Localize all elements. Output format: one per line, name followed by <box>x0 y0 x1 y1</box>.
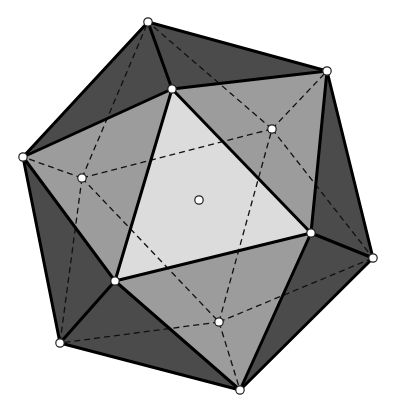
vertex-g <box>369 254 377 262</box>
vertex-i <box>236 386 244 394</box>
center-point <box>195 196 203 204</box>
vertex-d <box>168 85 176 93</box>
vertex-h <box>56 339 64 347</box>
vertex-a <box>144 18 152 26</box>
vertex-k <box>78 174 86 182</box>
vertex-f <box>111 277 119 285</box>
vertex-b <box>323 67 331 75</box>
vertex-c <box>19 153 27 161</box>
vertex-j <box>268 125 276 133</box>
vertex-e <box>307 229 315 237</box>
vertex-l <box>215 318 223 326</box>
icosahedron-figure <box>0 0 399 411</box>
icosahedron-diagram <box>0 0 399 411</box>
